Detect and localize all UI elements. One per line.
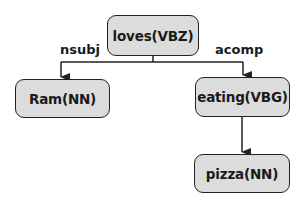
node-loves-label: loves(VBZ)	[113, 28, 194, 44]
node-eating-label: eating(VBG)	[197, 89, 288, 105]
node-loves: loves(VBZ)	[107, 15, 199, 56]
node-ram: Ram(NN)	[15, 79, 110, 118]
edge-label-nsubj: nsubj	[60, 42, 100, 57]
edge-label-acomp: acomp	[215, 42, 263, 57]
node-eating: eating(VBG)	[195, 77, 290, 117]
node-ram-label: Ram(NN)	[29, 91, 96, 107]
node-pizza: pizza(NN)	[194, 154, 290, 193]
node-pizza-label: pizza(NN)	[206, 166, 278, 182]
